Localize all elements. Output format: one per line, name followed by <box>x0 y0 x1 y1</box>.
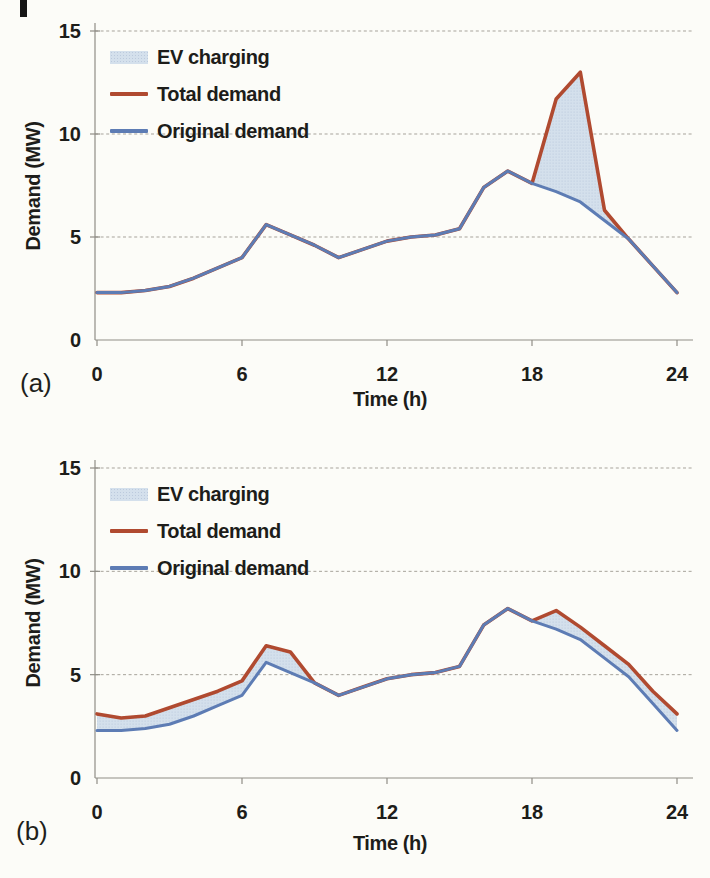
chart-a-legend: EV charging Total demand Original demand <box>110 46 309 142</box>
ev-charging-area-swatch <box>110 51 148 64</box>
y-tick-label: 0 <box>70 767 81 789</box>
legend-item-original-demand: Original demand <box>110 557 309 579</box>
book-figure-page: { "page": { "background": "#fcfcf8", "te… <box>0 0 710 878</box>
y-tick-label: 15 <box>59 457 81 479</box>
legend-item-total-demand: Total demand <box>110 83 309 105</box>
legend-label: EV charging <box>157 46 269 68</box>
legend-label: Total demand <box>157 520 281 542</box>
original-demand-line-swatch <box>110 129 148 133</box>
total-demand-line-swatch <box>110 92 148 96</box>
x-tick-label: 0 <box>91 363 102 385</box>
x-tick-label: 18 <box>521 801 543 823</box>
chart-a-panel-label: (a) <box>20 368 52 399</box>
legend-item-original-demand: Original demand <box>110 120 309 142</box>
legend-label: EV charging <box>157 483 269 505</box>
legend-label: Original demand <box>157 557 309 579</box>
chart-b-panel-label: (b) <box>16 816 48 847</box>
chart-b-x-axis-title: Time (h) <box>353 832 427 855</box>
x-tick-label: 12 <box>376 801 398 823</box>
chart-b-y-axis-title: Demand (MW) <box>22 559 45 688</box>
chart-a-y-axis-title: Demand (MW) <box>22 122 45 251</box>
total-demand-line-swatch <box>110 529 148 533</box>
ev-charging-area-swatch <box>110 488 148 501</box>
chart-a-x-axis-title: Time (h) <box>353 388 427 411</box>
x-tick-label: 24 <box>666 363 689 385</box>
original-demand-line-swatch <box>110 566 148 570</box>
x-tick-label: 12 <box>376 363 398 385</box>
x-tick-label: 24 <box>666 801 689 823</box>
legend-label: Total demand <box>157 83 281 105</box>
ev-charging-area <box>97 609 677 731</box>
y-tick-label: 5 <box>70 664 81 686</box>
y-tick-label: 10 <box>59 560 81 582</box>
y-tick-label: 10 <box>59 123 81 145</box>
charts-canvas: 0510150612182405101506121824 <box>0 0 710 878</box>
legend-label: Original demand <box>157 120 309 142</box>
x-tick-label: 18 <box>521 363 543 385</box>
total-demand-line <box>97 609 677 719</box>
y-tick-label: 5 <box>70 226 81 248</box>
legend-item-ev-charging: EV charging <box>110 483 309 505</box>
legend-item-total-demand: Total demand <box>110 520 309 542</box>
legend-item-ev-charging: EV charging <box>110 46 309 68</box>
x-tick-label: 0 <box>91 801 102 823</box>
x-tick-label: 6 <box>236 801 247 823</box>
chart-b-legend: EV charging Total demand Original demand <box>110 483 309 579</box>
y-tick-label: 0 <box>70 329 81 351</box>
x-tick-label: 6 <box>236 363 247 385</box>
y-tick-label: 15 <box>59 20 81 42</box>
